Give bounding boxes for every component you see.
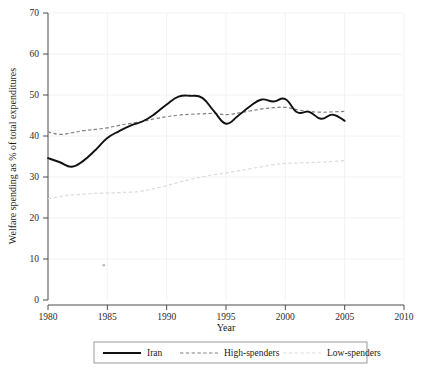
chart-svg: 010203040506070 198019851990199520002005… xyxy=(0,0,431,368)
y-tick-label: 50 xyxy=(30,90,40,100)
legend: IranHigh-spendersLow-spenders xyxy=(94,342,381,363)
legend-label-iran: Iran xyxy=(147,348,163,358)
y-tick-label: 0 xyxy=(34,295,39,305)
y-tick-label: 30 xyxy=(30,172,40,182)
x-tick-label: 1995 xyxy=(217,312,236,322)
gridlines xyxy=(48,13,404,300)
x-tick-label: 1980 xyxy=(39,312,58,322)
y-tick-label: 20 xyxy=(30,213,40,223)
y-tick-label: 60 xyxy=(30,49,40,59)
x-tick-label: 2000 xyxy=(276,312,295,322)
x-axis-title: Year xyxy=(217,322,236,333)
plot-series xyxy=(48,95,345,266)
x-axis: 1980198519901995200020052010 xyxy=(39,305,414,322)
chart-annotations xyxy=(102,264,105,267)
y-tick-label: 10 xyxy=(30,254,40,264)
series-line-high-spenders xyxy=(48,107,345,134)
x-tick-label: 2005 xyxy=(335,312,354,322)
x-tick-label: 1990 xyxy=(157,312,176,322)
y-axis: 010203040506070 xyxy=(30,8,49,305)
series-line-low-spenders xyxy=(48,161,345,199)
y-tick-label: 70 xyxy=(30,8,40,18)
x-tick-label: 1985 xyxy=(98,312,117,322)
stray-marker-dot xyxy=(102,264,105,267)
legend-label-high-spenders: High-spenders xyxy=(224,348,280,358)
chart-figure: 010203040506070 198019851990199520002005… xyxy=(0,0,431,368)
x-tick-label: 2010 xyxy=(395,312,414,322)
series-line-iran xyxy=(48,95,345,166)
y-tick-label: 40 xyxy=(30,131,40,141)
y-axis-title: Welfare spending as % of total expenditu… xyxy=(7,68,18,244)
legend-label-low-spenders: Low-spenders xyxy=(327,348,381,358)
